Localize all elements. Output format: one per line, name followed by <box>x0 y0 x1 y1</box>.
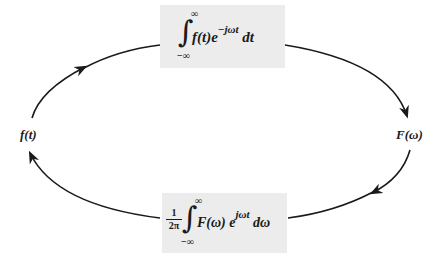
fraction-numerator: 1 <box>166 208 182 220</box>
inverse-differential: dω <box>253 215 270 230</box>
fraction-denominator: 2π <box>166 220 182 231</box>
forward-exponent: −jωt <box>218 23 239 35</box>
arc-bottom-right-cont <box>288 192 373 218</box>
arc-top-left <box>32 67 85 118</box>
coefficient-fraction: 1 2π <box>166 208 182 231</box>
forward-transform-box: ∞ ∫ −∞ f(t)e−jωt dt <box>160 5 285 68</box>
fourier-transform-cycle-diagram: f(t) F(ω) ∞ ∫ −∞ f(t)e−jωt dt 1 2π ∞ ∫ −… <box>0 0 446 255</box>
forward-integrand: f(t)e−jωt dt <box>192 29 254 46</box>
integral-lower-limit: −∞ <box>177 51 190 61</box>
inverse-integrand: F(ω) ejωt dω <box>197 215 270 231</box>
node-time-domain: f(t) <box>20 127 37 143</box>
inverse-exponent: jωt <box>236 208 250 220</box>
arc-bottom-right <box>372 150 410 193</box>
arc-top-right <box>285 45 407 116</box>
arc-bottom-left <box>30 153 160 218</box>
forward-differential: dt <box>242 29 254 45</box>
inverse-transform-box: 1 2π ∞ ∫ −∞ F(ω) ejωt dω <box>162 193 287 253</box>
arc-top-left-cont <box>84 45 160 68</box>
integral-sign: ∫ <box>182 203 198 233</box>
node-frequency-domain: F(ω) <box>396 127 423 143</box>
integral-lower-limit: −∞ <box>181 237 194 247</box>
